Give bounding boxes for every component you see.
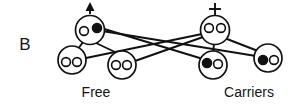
diagram-canvas: B Free Carriers: [0, 0, 300, 105]
subparticle-filled: [92, 23, 101, 32]
node-top-left: [76, 2, 105, 45]
subparticle-open: [62, 58, 71, 67]
subparticle-open: [73, 58, 82, 67]
plus-icon: [209, 3, 221, 15]
node-bottom-left-2: [108, 51, 136, 79]
subparticle-open: [80, 27, 89, 36]
subparticle-open: [214, 60, 223, 69]
panel-letter: B: [19, 35, 30, 54]
node-bottom-right-2: [254, 44, 282, 72]
subparticle-open: [112, 61, 121, 70]
subparticle-filled: [258, 55, 267, 64]
figure-panel-b: B Free Carriers: [0, 0, 300, 105]
subparticle-open: [270, 56, 279, 65]
node-top-right: [201, 3, 230, 45]
node-bottom-right-1: [199, 51, 227, 79]
subparticle-open: [123, 61, 132, 70]
edge-topright-bottomright2: [227, 39, 258, 51]
group-label-free: Free: [82, 84, 111, 100]
subparticle-filled: [202, 58, 211, 67]
arrow-up-icon: [86, 2, 95, 14]
subparticle-open: [205, 24, 214, 33]
subparticle-open: [217, 24, 226, 33]
group-label-carriers: Carriers: [224, 84, 274, 100]
node-bottom-left-1: [58, 46, 86, 74]
